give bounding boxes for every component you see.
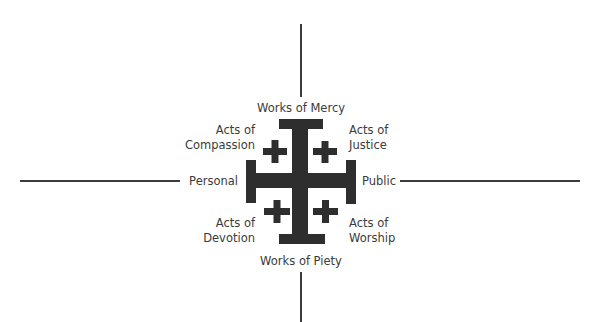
label-acts-of-justice: Acts of Justice xyxy=(349,123,388,153)
label-line: Devotion xyxy=(180,231,255,246)
label-public: Public xyxy=(362,174,396,189)
label-works-of-piety: Works of Piety xyxy=(250,254,352,269)
label-line: Acts of xyxy=(180,216,255,231)
label-personal: Personal xyxy=(180,174,238,189)
jerusalem-cross-icon xyxy=(0,0,591,322)
label-text: Works of Mercy xyxy=(250,101,352,116)
label-line: Compassion xyxy=(180,138,255,153)
label-line: Acts of xyxy=(349,123,388,138)
label-acts-of-compassion: Acts of Compassion xyxy=(180,123,255,153)
label-line: Acts of xyxy=(349,216,395,231)
label-text: Public xyxy=(362,174,396,189)
label-line: Justice xyxy=(349,138,388,153)
label-text: Personal xyxy=(180,174,238,189)
label-line: Worship xyxy=(349,231,395,246)
label-acts-of-devotion: Acts of Devotion xyxy=(180,216,255,246)
label-acts-of-worship: Acts of Worship xyxy=(349,216,395,246)
label-line: Acts of xyxy=(180,123,255,138)
label-works-of-mercy: Works of Mercy xyxy=(250,101,352,116)
label-text: Works of Piety xyxy=(250,254,352,269)
